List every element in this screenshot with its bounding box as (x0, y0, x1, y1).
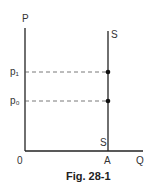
supply-label-top: S (111, 30, 118, 40)
p0-point (106, 99, 111, 104)
p0-label: p₀ (10, 96, 20, 106)
y-axis-label: P (22, 14, 29, 24)
x-axis-label: Q (136, 156, 144, 166)
supply-label-bottom: S (100, 138, 107, 148)
figure-caption: Fig. 28-1 (66, 170, 111, 182)
origin-label: 0 (17, 156, 23, 166)
p1-label: p₁ (10, 67, 19, 77)
quantity-a-label: A (104, 156, 111, 166)
p1-point (106, 70, 111, 75)
